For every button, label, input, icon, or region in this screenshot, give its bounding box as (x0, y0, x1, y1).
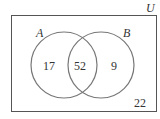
circle-a (31, 32, 97, 98)
set-a-label: A (36, 27, 43, 39)
outside-value: 22 (134, 97, 146, 109)
universe-label: U (146, 2, 155, 14)
b-only-value: 9 (111, 60, 117, 72)
intersection-value: 52 (74, 60, 86, 72)
set-b-label: B (123, 27, 130, 39)
a-only-value: 17 (43, 60, 55, 72)
